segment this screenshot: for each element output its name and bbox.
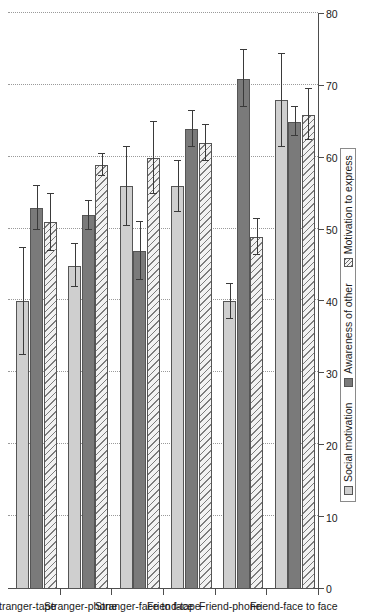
error-bar-cap [19, 247, 26, 248]
error-bar [295, 107, 296, 136]
bar [237, 79, 250, 589]
error-bar-cap [174, 211, 181, 212]
error-bar-cap [71, 286, 78, 287]
bar [302, 115, 315, 589]
error-bar-cap [202, 160, 209, 161]
axis-tick-label: 40 [326, 297, 338, 308]
error-bar-cap [123, 146, 130, 147]
error-bar [126, 147, 127, 226]
error-bar-cap [278, 146, 285, 147]
axis-tick [318, 157, 324, 158]
error-bar-cap [33, 229, 40, 230]
category-tick [215, 589, 216, 595]
rotated-chart-canvas: 01020304050607080 Stranger-tapeStranger-… [0, 0, 369, 615]
bar [275, 100, 288, 589]
axis-tick-label: 0 [326, 585, 332, 596]
bar [120, 187, 133, 590]
error-bar [281, 54, 282, 147]
gridline [8, 84, 318, 85]
error-bar-cap [19, 354, 26, 355]
error-bar [140, 222, 141, 280]
error-bar-cap [226, 318, 233, 319]
legend-item: Awareness of other [342, 283, 354, 386]
error-bar [205, 125, 206, 161]
bar [95, 165, 108, 589]
category-label: Friend-tape [147, 600, 201, 612]
error-bar-cap [136, 279, 143, 280]
bar [30, 208, 43, 589]
error-bar-cap [174, 160, 181, 161]
error-bar-cap [240, 49, 247, 50]
error-bar [88, 201, 89, 230]
error-bar-cap [188, 146, 195, 147]
error-bar-cap [291, 106, 298, 107]
chart-screenshot: 01020304050607080 Stranger-tapeStranger-… [0, 0, 369, 615]
bar [44, 222, 57, 589]
value-axis-line [318, 14, 319, 589]
error-bar-cap [253, 218, 260, 219]
error-bar-cap [305, 139, 312, 140]
bar [288, 122, 301, 589]
legend-label: Social motivation [342, 403, 354, 482]
error-bar-cap [226, 283, 233, 284]
error-bar-cap [305, 88, 312, 89]
error-bar [178, 161, 179, 211]
error-bar-cap [98, 175, 105, 176]
error-bar [75, 244, 76, 287]
dark-gray-swatch [344, 378, 353, 387]
chart-legend: Social motivationAwareness of otherMotiv… [340, 148, 356, 502]
gridline [8, 12, 318, 13]
error-bar-cap [85, 229, 92, 230]
gridline [8, 156, 318, 157]
legend-label: Motivation to express [342, 155, 354, 254]
error-bar-cap [33, 186, 40, 187]
axis-tick-label: 60 [326, 153, 338, 164]
axis-tick [318, 13, 324, 14]
error-bar-cap [188, 110, 195, 111]
category-tick [111, 589, 112, 595]
error-bar-cap [136, 221, 143, 222]
axis-tick [318, 516, 324, 517]
category-tick [60, 589, 61, 595]
error-bar [37, 187, 38, 230]
error-bar [153, 122, 154, 194]
error-bar-cap [85, 200, 92, 201]
axis-tick-label: 10 [326, 513, 338, 524]
plot-wrapper: 01020304050607080 Stranger-tapeStranger-… [0, 0, 369, 615]
error-bar-cap [98, 153, 105, 154]
error-bar-cap [291, 135, 298, 136]
error-bar [102, 154, 103, 176]
legend-item: Motivation to express [342, 155, 354, 267]
error-bar [243, 50, 244, 108]
bar [223, 302, 236, 590]
axis-tick [318, 372, 324, 373]
light-gray-swatch [344, 486, 353, 495]
error-bar-cap [47, 193, 54, 194]
bar [171, 187, 184, 590]
error-bar [230, 284, 231, 320]
category-tick [266, 589, 267, 595]
error-bar-cap [240, 106, 247, 107]
error-bar-cap [253, 254, 260, 255]
bar [199, 143, 212, 589]
error-bar [192, 111, 193, 147]
error-bar [50, 194, 51, 252]
legend-item: Social motivation [342, 403, 354, 495]
axis-tick [318, 229, 324, 230]
legend-label: Awareness of other [342, 283, 354, 373]
bar [68, 266, 81, 589]
axis-tick-label: 30 [326, 369, 338, 380]
bar [147, 158, 160, 589]
error-bar-cap [123, 225, 130, 226]
error-bar [23, 248, 24, 356]
category-label: Friend-face to face [250, 600, 338, 612]
error-bar-cap [71, 243, 78, 244]
error-bar-cap [47, 250, 54, 251]
axis-tick-label: 20 [326, 441, 338, 452]
error-bar-cap [150, 193, 157, 194]
bar [82, 215, 95, 589]
category-tick [163, 589, 164, 595]
error-bar-cap [202, 124, 209, 125]
error-bar-cap [278, 53, 285, 54]
category-tick [318, 589, 319, 595]
